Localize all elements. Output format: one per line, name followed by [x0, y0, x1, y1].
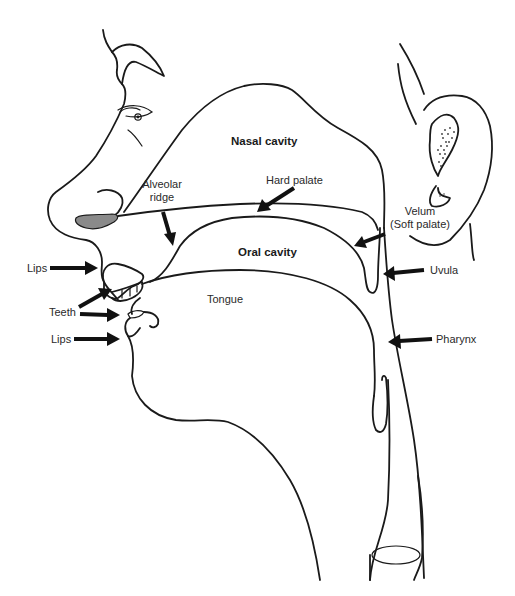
label-velum-line2: (Soft palate) — [388, 218, 452, 231]
arrow-teeth-upper — [79, 288, 112, 307]
label-tongue: Tongue — [207, 293, 243, 306]
label-uvula: Uvula — [430, 264, 458, 277]
label-alveolar-ridge: Alveolar ridge — [142, 178, 182, 204]
label-velum-line1: Velum — [388, 205, 452, 218]
label-velum: Velum (Soft palate) — [388, 205, 452, 231]
arrow-uvula — [383, 266, 424, 281]
arrow-alveolar-ridge — [163, 212, 176, 246]
label-alveolar-ridge-line2: ridge — [142, 191, 182, 204]
arrow-hard-palate — [257, 188, 294, 212]
chin-jaw — [128, 336, 320, 580]
arrow-lips-upper — [50, 261, 98, 275]
label-lips-upper: Lips — [27, 262, 47, 275]
label-pharynx: Pharynx — [436, 333, 476, 346]
nostril — [75, 214, 117, 229]
label-teeth: Teeth — [49, 306, 76, 319]
face-profile — [48, 30, 164, 300]
nasal-cavity-outline — [124, 84, 385, 228]
label-lips-lower: Lips — [51, 333, 71, 346]
upper-lip-teeth — [103, 264, 143, 301]
tongue-dorsum — [142, 270, 375, 396]
label-hard-palate: Hard palate — [266, 174, 323, 187]
trachea-ring — [372, 546, 420, 564]
label-nasal-cavity: Nasal cavity — [231, 135, 298, 148]
arrow-lips-lower — [74, 332, 120, 346]
arrow-teeth-lower — [80, 308, 120, 322]
lower-lip-teeth — [125, 298, 158, 337]
label-oral-cavity: Oral cavity — [238, 246, 297, 259]
label-alveolar-ridge-line1: Alveolar — [142, 178, 182, 191]
pharynx-back-wall — [384, 228, 424, 578]
vocal-tract-diagram — [0, 0, 515, 596]
